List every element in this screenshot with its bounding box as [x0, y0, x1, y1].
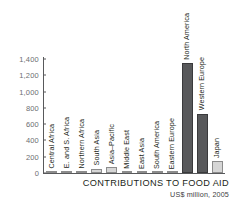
- bar-category-label: Asia–Pacific: [108, 124, 115, 164]
- bar-category-label: Northern Africa: [78, 119, 85, 168]
- y-tick-mark: [43, 173, 46, 174]
- bar-category-label: Eastern Europe: [168, 118, 175, 169]
- bar: [212, 161, 223, 173]
- bar: [152, 171, 163, 173]
- bar: [91, 169, 102, 173]
- y-tick-label: 400: [26, 136, 39, 145]
- y-tick-mark: [43, 91, 46, 92]
- bar: [122, 171, 133, 173]
- y-tick-label: 600: [26, 120, 39, 129]
- bar: [76, 171, 87, 173]
- bar-slot: E. and S. Africa: [59, 59, 74, 173]
- y-tick-mark: [43, 59, 46, 60]
- bar: [46, 171, 57, 173]
- y-tick-mark: [43, 156, 46, 157]
- y-tick-label: 1,400: [19, 55, 39, 64]
- bar-category-label: South America: [153, 121, 160, 169]
- bar: [61, 171, 72, 173]
- bar-slot: South America: [150, 59, 165, 173]
- bar-slot: East Asia: [134, 59, 149, 173]
- bar-category-label: Japan: [213, 138, 220, 158]
- bar-category-label: East Asia: [138, 138, 145, 169]
- bar-slot: Central Africa: [44, 59, 59, 173]
- y-tick-mark: [43, 140, 46, 141]
- bar-slot: Japan: [210, 59, 225, 173]
- bar-slot: Northern Africa: [74, 59, 89, 173]
- y-tick-label: 200: [26, 152, 39, 161]
- bar-slot: Eastern Europe: [165, 59, 180, 173]
- bar-category-label: North America: [183, 13, 190, 60]
- bar: [197, 114, 208, 173]
- bar-slot: Asia–Pacific: [104, 59, 119, 173]
- bar-category-label: Middle East: [123, 130, 130, 169]
- bar-series: Central AfricaE. and S. AfricaNorthern A…: [44, 59, 225, 173]
- y-tick-mark: [43, 107, 46, 108]
- y-tick-label: 0: [35, 169, 39, 178]
- y-tick-mark: [43, 124, 46, 125]
- x-axis-line: [43, 173, 225, 174]
- bar-category-label: South Asia: [93, 130, 100, 165]
- bar-category-label: E. and S. Africa: [63, 117, 70, 168]
- food-aid-bar-chart: 1,4001,2001,0008006004002000 Central Afr…: [0, 0, 235, 202]
- y-tick-label: 1,000: [19, 87, 39, 96]
- bar: [182, 63, 193, 173]
- bar-slot: Middle East: [119, 59, 134, 173]
- bar-category-label: Western Europe: [198, 57, 205, 110]
- chart-title: CONTRIBUTIONS TO FOOD AID: [0, 178, 229, 188]
- y-tick-label: 1,200: [19, 71, 39, 80]
- y-tick-mark: [43, 75, 46, 76]
- bar: [137, 171, 148, 173]
- bar-category-label: Central Africa: [48, 124, 55, 169]
- bar-slot: North America: [180, 59, 195, 173]
- bar: [167, 171, 178, 173]
- y-axis-tick-labels: 1,4001,2001,0008006004002000: [0, 0, 39, 202]
- bar-slot: South Asia: [89, 59, 104, 173]
- chart-subtitle: US$ million, 2005: [0, 190, 229, 199]
- bar: [106, 167, 117, 173]
- y-tick-label: 800: [26, 103, 39, 112]
- bar-slot: Western Europe: [195, 59, 210, 173]
